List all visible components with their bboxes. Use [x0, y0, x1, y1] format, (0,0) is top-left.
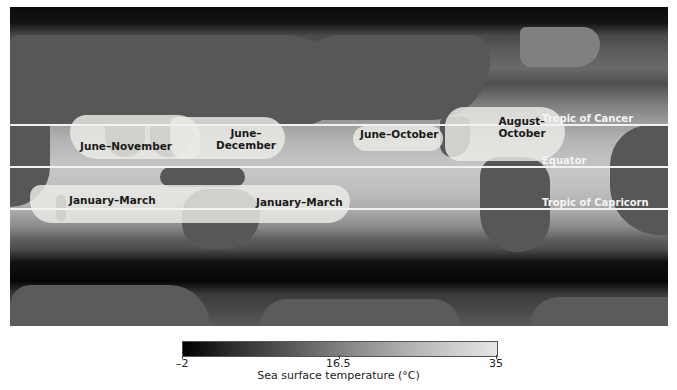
tropic-of-cancer-line — [10, 124, 668, 126]
colorbar-title: Sea surface temperature (°C) — [0, 369, 677, 382]
land-south-america — [480, 157, 550, 252]
land-antarctica-east — [530, 297, 668, 326]
land-antarctica-west — [10, 285, 210, 326]
land-indonesia — [160, 167, 245, 187]
world-map: June–November June–December June–October… — [10, 7, 668, 326]
zone-label-june-november: June–November — [80, 140, 172, 152]
land-africa-east — [610, 125, 668, 235]
equator-line — [10, 166, 668, 168]
zone-label-january-march-pacific: January–March — [256, 196, 343, 208]
label-tropic-of-cancer: Tropic of Cancer — [542, 113, 633, 124]
label-equator: Equator — [542, 155, 586, 166]
land-antarctica-middle — [260, 299, 460, 326]
temperature-colorbar — [182, 341, 498, 357]
zone-label-june-october: June–October — [360, 128, 438, 140]
zone-label-june-december: June–December — [214, 127, 278, 151]
label-tropic-of-capricorn: Tropic of Capricorn — [542, 197, 649, 208]
land-greenland — [520, 27, 600, 67]
tropic-of-capricorn-line — [10, 208, 668, 210]
zone-label-january-march-indian: January–March — [69, 194, 156, 206]
